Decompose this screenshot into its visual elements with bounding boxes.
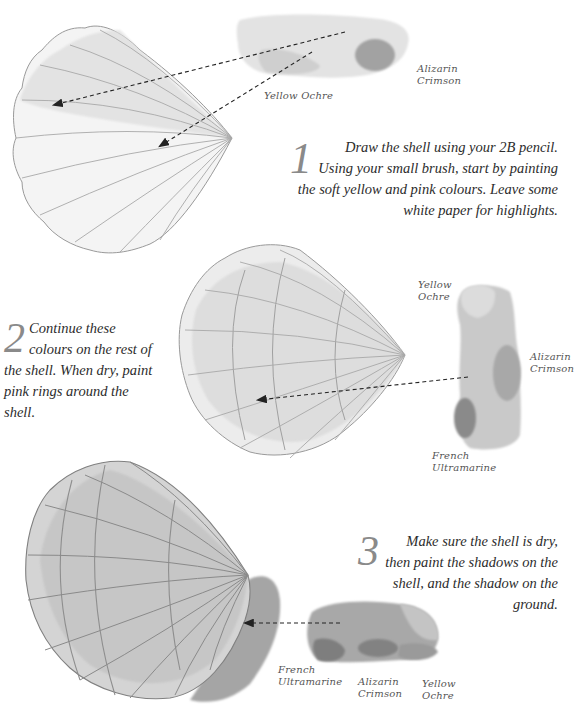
label-s1-alizarin: Alizarin Crimson xyxy=(417,63,461,87)
label-s3-ochre: Yellow Ochre xyxy=(422,678,456,702)
label-s2-ochre: Yellow Ochre xyxy=(418,279,452,303)
label-s3-french: French Ultramarine xyxy=(278,664,342,688)
label-line: Ultramarine xyxy=(278,676,342,688)
step-1-text: Draw the shell using your 2B pencil. Usi… xyxy=(298,139,558,218)
step-3-text: Make sure the shell is dry, then paint t… xyxy=(385,533,558,612)
label-line: French xyxy=(432,450,496,462)
step-3-block: 3 Make sure the shell is dry, then paint… xyxy=(358,531,558,615)
swatch-step1 xyxy=(237,15,409,78)
label-line: Ochre xyxy=(418,291,452,303)
label-line: Crimson xyxy=(417,75,461,87)
step-1-numeral: 1 xyxy=(290,141,312,176)
label-s2-alizarin: Alizarin Crimson xyxy=(530,351,574,375)
label-line: Ochre xyxy=(422,690,456,702)
label-s2-french: French Ultramarine xyxy=(432,450,496,474)
label-s1-ochre: Yellow Ochre xyxy=(264,90,333,102)
swatch-step2 xyxy=(454,285,521,449)
label-line: Yellow xyxy=(418,279,452,291)
step-2-numeral: 2 xyxy=(4,322,25,356)
label-line: French xyxy=(278,664,342,676)
step-2-text: Continue these colours on the rest of th… xyxy=(4,320,152,420)
step-3-numeral: 3 xyxy=(358,535,379,569)
label-s3-alizarin: Alizarin Crimson xyxy=(358,676,402,700)
label-line: Ultramarine xyxy=(432,462,496,474)
shell-step1 xyxy=(13,26,232,253)
label-line: Crimson xyxy=(358,688,402,700)
label-line: Crimson xyxy=(530,363,574,375)
label-line: Alizarin xyxy=(417,63,461,75)
label-line: Alizarin xyxy=(530,351,574,363)
label-line: Alizarin xyxy=(358,676,402,688)
label-line: Yellow xyxy=(422,678,456,690)
step-1-block: 1 Draw the shell using your 2B pencil. U… xyxy=(290,137,558,221)
shell-step3 xyxy=(26,461,280,702)
step-2-block: 2 Continue these colours on the rest of … xyxy=(4,318,160,423)
shell-step2 xyxy=(179,245,405,458)
label-line: Yellow Ochre xyxy=(264,90,333,102)
